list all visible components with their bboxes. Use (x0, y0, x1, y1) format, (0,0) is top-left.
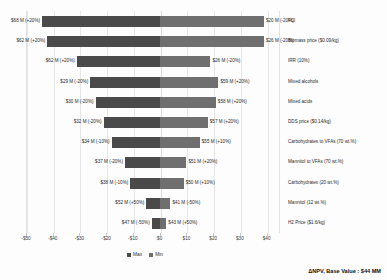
chart-row: $32 M (-20%)$57 M (+20%) (26, 112, 280, 132)
bar-max (125, 157, 160, 168)
bar-max (146, 198, 159, 209)
axis-tick-label: -$40 (48, 236, 57, 241)
bar-label-left: $38 M (-10%) (100, 177, 130, 188)
bar-label-left: $32 M (-20%) (74, 116, 104, 127)
legend-swatch-max-icon (127, 253, 131, 257)
axis-tick-label: -$30 (75, 236, 84, 241)
chart-row: $29 M (-20%)$59 M (+20%) (26, 72, 280, 92)
axis-tick-label: -$20 (102, 236, 111, 241)
bar-max (112, 137, 160, 148)
chart-legend: Max Min (0, 252, 290, 257)
category-label: FCI (288, 15, 295, 26)
bar-label-right: $50 M (+10%) (184, 177, 215, 188)
legend-item-max: Max (127, 252, 142, 257)
chart-row: $30 M (-20%)$58 M (+20%) (26, 92, 280, 112)
bar-label-right: $41 M (-50%) (170, 197, 200, 208)
bar-label-left: $30 M (-20%) (66, 96, 96, 107)
bar-max (96, 97, 160, 108)
bar-max (130, 178, 159, 189)
legend-label-min: Min (155, 252, 163, 257)
bar-label-left: $47 M (-50%) (122, 217, 152, 228)
category-labels-column: FCIBiomass price ($0.09/kg)IRR (10%)Mixe… (288, 11, 387, 233)
chart-row: $68 M (+20%)$20 M (-20%) (26, 11, 280, 31)
bar-label-left: $29 M (-20%) (60, 76, 90, 87)
category-label: Mannitol to VFAs (70 wt.%) (288, 156, 343, 167)
chart-row: $37 M (-20%)$51 M (+20%) (26, 152, 280, 172)
bar-max (104, 117, 160, 128)
bar-label-right: $26 M (-20%) (210, 55, 240, 66)
bar-min (160, 77, 219, 88)
bar-max (42, 16, 160, 27)
bar-label-right: $51 M (+20%) (186, 156, 217, 167)
category-label: H2 Price ($1.6/kg) (288, 217, 325, 228)
legend-label-max: Max (133, 252, 142, 257)
category-label: Biomass price ($0.09/kg) (288, 35, 339, 46)
bar-label-right: $58 M (+20%) (216, 96, 247, 107)
bar-max (90, 77, 160, 88)
category-label: DDS price ($0.14/kg) (288, 116, 331, 127)
bar-min (160, 97, 216, 108)
bar-max (77, 56, 160, 67)
bar-min (160, 157, 187, 168)
bar-min (160, 178, 184, 189)
base-value-annotation: ΔNPV, Base Value : $44 MM (308, 268, 381, 274)
category-label: Mixed alcohols (288, 76, 318, 87)
legend-item-min: Min (149, 252, 163, 257)
bar-max (152, 218, 160, 229)
bar-label-left: $62 M (+20%) (16, 35, 47, 46)
axis-tick-label: $40 (263, 236, 271, 241)
bar-label-left: $34 M (-10%) (82, 136, 112, 147)
category-label: IRR (10%) (288, 55, 309, 66)
bar-label-left: $52 M (+50%) (115, 197, 146, 208)
bar-label-right: $55 M (+10%) (200, 136, 231, 147)
tornado-chart: $68 M (+20%)$20 M (-20%)$62 M (+20%)$26 … (0, 0, 387, 280)
bar-min (160, 137, 200, 148)
chart-rows-container: $68 M (+20%)$20 M (-20%)$62 M (+20%)$26 … (26, 11, 280, 233)
chart-row: $62 M (+20%)$26 M (-20%) (26, 31, 280, 51)
x-axis: -$50-$40-$30-$20-$10$0$10$20$30$40 (26, 233, 280, 247)
bar-min (160, 198, 171, 209)
chart-row: $38 M (-10%)$50 M (+10%) (26, 173, 280, 193)
category-label: Mannitol (12 wt.%) (288, 197, 326, 208)
axis-tick-label: $30 (236, 236, 244, 241)
bar-max (47, 36, 159, 47)
bar-label-right: $59 M (+20%) (219, 76, 250, 87)
chart-row: $52 M (+50%)$41 M (-50%) (26, 193, 280, 213)
chart-row: $47 M (-50%)$43 M (+50%) (26, 213, 280, 233)
chart-row: $34 M (-10%)$55 M (+10%) (26, 132, 280, 152)
axis-tick-label: $10 (183, 236, 191, 241)
bar-label-left: $68 M (+20%) (11, 15, 42, 26)
bar-label-left: $62 M (+20%) (46, 55, 77, 66)
bar-label-right: $43 M (+50%) (166, 217, 197, 228)
category-label: Mixed acids (288, 96, 312, 107)
chart-row: $62 M (+20%)$26 M (-20%) (26, 51, 280, 71)
axis-tick-label: -$50 (21, 236, 30, 241)
legend-swatch-min-icon (149, 253, 153, 257)
bar-min (160, 36, 264, 47)
bar-min (160, 117, 208, 128)
bar-min (160, 16, 264, 27)
bar-label-right: $57 M (+20%) (208, 116, 239, 127)
axis-tick-label: -$10 (128, 236, 137, 241)
axis-tick-label: $20 (209, 236, 217, 241)
bar-label-left: $37 M (-20%) (95, 156, 125, 167)
bar-min (160, 218, 167, 229)
bar-min (160, 56, 211, 67)
axis-tick-label: $0 (157, 236, 162, 241)
category-label: Carbohydrates (20 wt.%) (288, 177, 339, 188)
category-label: Carbohydrates to VFAs (70 wt.%) (288, 136, 356, 147)
